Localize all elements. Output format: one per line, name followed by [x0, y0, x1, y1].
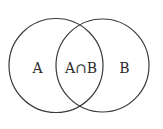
intersection-label: A∩B	[64, 60, 97, 76]
set-b-label: B	[119, 60, 129, 76]
venn-diagram: A A∩B B	[0, 0, 163, 129]
set-a-label: A	[31, 60, 43, 76]
